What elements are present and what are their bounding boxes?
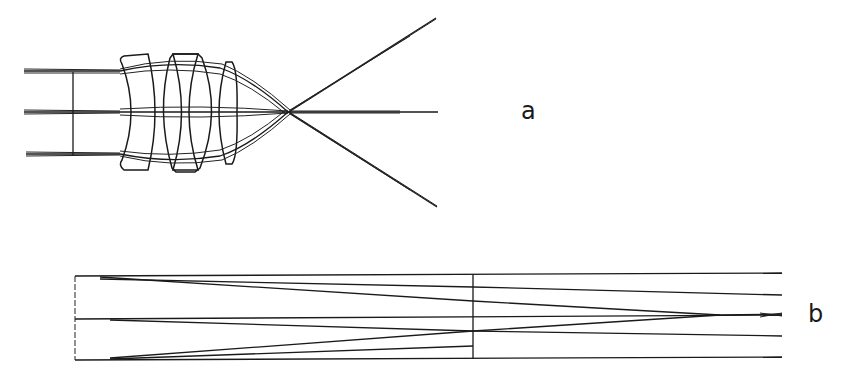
converging-rays xyxy=(120,61,290,163)
panel-label-b: b xyxy=(808,302,823,326)
guide-top-edge xyxy=(75,273,782,276)
optical-diagram xyxy=(0,0,846,382)
diverging-rays xyxy=(286,18,438,207)
panel-a-lens-system xyxy=(24,18,438,207)
input-rays xyxy=(24,69,120,156)
panel-b-guide xyxy=(75,273,782,360)
guide-bottom-edge xyxy=(75,357,782,360)
panel-label-a: a xyxy=(521,99,536,123)
